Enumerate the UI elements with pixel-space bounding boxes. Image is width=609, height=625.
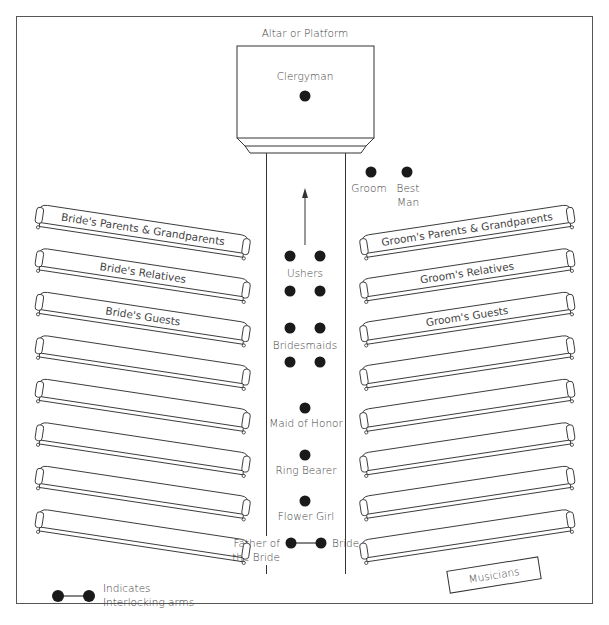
maid-of-honor-label: Maid of Honor: [269, 417, 343, 429]
best-man-label: Best: [397, 182, 420, 194]
bride-label: Bride: [332, 537, 359, 549]
clergyman-label: Clergyman: [277, 70, 334, 82]
legend-interlocking-arms-icon: [52, 590, 95, 602]
legend-label: Indicates: [103, 582, 151, 594]
bridesmaids-label: Bridesmaids: [273, 339, 337, 351]
svg-text:Musicians: Musicians: [468, 565, 521, 585]
seating-diagram: Altar or Platform Clergyman Groom Best M…: [0, 0, 609, 625]
groom-label: Groom: [351, 182, 386, 194]
best-man-label-2: Man: [397, 196, 419, 208]
interlocking-arms-icon: [286, 538, 327, 549]
ring-bearer-dot-icon: [300, 450, 311, 461]
left-pew-8: [34, 508, 251, 565]
groom-dot-icon: [366, 167, 377, 178]
musicians-box: Musicians: [447, 557, 541, 593]
best-man-dot-icon: [402, 167, 413, 178]
legend-label-2: Interlocking arms: [103, 596, 194, 608]
flower-girl-label: Flower Girl: [278, 510, 334, 522]
pew-label: Bride's Guests: [105, 304, 182, 327]
flower-girl-dot-icon: [300, 496, 311, 507]
clergyman-dot-icon: [300, 91, 311, 102]
altar-label: Altar or Platform: [262, 27, 349, 39]
ring-bearer-label: Ring Bearer: [275, 464, 337, 476]
maid-of-honor-dot-icon: [300, 403, 311, 414]
ushers-label: Ushers: [287, 267, 323, 279]
left-pews: Bride's Parents & GrandparentsBride's Re…: [34, 204, 251, 565]
right-pew-8: [359, 508, 576, 565]
arrow-up-icon: [302, 188, 308, 245]
right-pews: Groom's Parents & GrandparentsGroom's Re…: [359, 204, 576, 565]
